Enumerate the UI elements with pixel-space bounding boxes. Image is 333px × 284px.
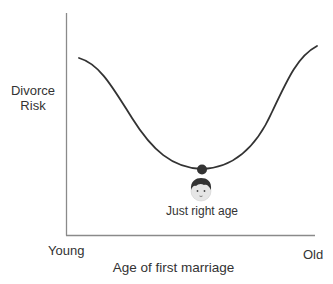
x-axis-label: Age of first marriage <box>0 260 333 275</box>
chart-plot <box>0 0 333 284</box>
face-icon <box>191 178 211 201</box>
y-axis-label: Divorce Risk <box>4 83 62 113</box>
annotation-just-right-age: Just right age <box>150 204 254 218</box>
x-axis-start-label: Young <box>48 243 84 258</box>
divorce-risk-curve <box>79 46 317 169</box>
optimal-point-marker <box>197 165 207 175</box>
